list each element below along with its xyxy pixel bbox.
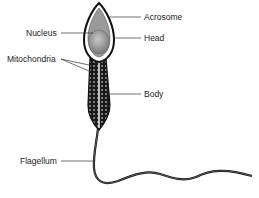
acrosome-label: Acrosome: [144, 12, 182, 22]
body-label: Body: [144, 89, 163, 99]
mitochondria-label: Mitochondria: [7, 54, 56, 64]
nucleus-shape: [89, 30, 110, 54]
nucleus-label: Nucleus: [26, 28, 57, 38]
flagellum-shape: [94, 128, 252, 183]
head-label: Head: [144, 33, 164, 43]
flagellum-label: Flagellum: [20, 156, 57, 166]
